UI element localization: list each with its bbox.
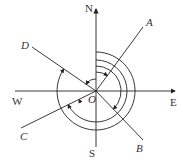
north-label: N: [85, 3, 93, 14]
ray-OC: [21, 91, 96, 128]
west-label: W: [12, 96, 22, 107]
ray-C-label: C: [20, 131, 27, 142]
south-label: S: [89, 148, 95, 159]
ray-D-label: D: [21, 40, 29, 51]
east-label: E: [170, 97, 177, 108]
ray-B-label: B: [136, 143, 143, 154]
arc-N-to-D-ccw: [86, 79, 96, 84]
diagram-canvas: [0, 0, 183, 162]
ray-A-label: A: [146, 17, 153, 28]
compass-diagram: N S E W O A B C D: [0, 0, 183, 162]
origin-label: O: [88, 94, 96, 105]
